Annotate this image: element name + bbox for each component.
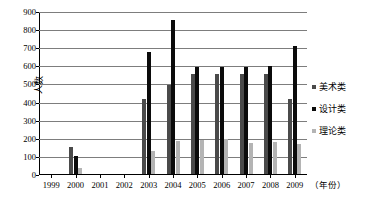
x-axis-tick (149, 175, 150, 178)
bar (268, 66, 272, 174)
bar (273, 142, 277, 174)
y-axis-tick (36, 103, 39, 104)
y-axis-tick (36, 66, 39, 67)
bar (244, 67, 248, 174)
bar-group (264, 11, 277, 174)
x-axis-tick (76, 175, 77, 178)
legend: 美术类设计类理论类 (312, 76, 370, 142)
bar (74, 156, 78, 174)
x-tick-label: 1999 (43, 180, 60, 190)
x-tick-label: 2003 (140, 180, 157, 190)
bar-group (288, 11, 301, 174)
bar (78, 168, 82, 174)
bar (249, 143, 253, 174)
bar (288, 99, 292, 174)
x-tick-label: 2008 (262, 180, 279, 190)
bar (151, 151, 155, 174)
y-tick-label: 600 (10, 62, 36, 71)
y-tick-label: 900 (10, 8, 36, 17)
x-axis-tick (295, 175, 296, 178)
x-tick-label: 2001 (91, 180, 108, 190)
bar (264, 74, 268, 174)
y-tick-label: 300 (10, 116, 36, 125)
x-axis-tick (270, 175, 271, 178)
bar-group (191, 11, 204, 174)
legend-item[interactable]: 美术类 (312, 76, 370, 98)
bar (240, 74, 244, 174)
y-tick-label: 800 (10, 26, 36, 35)
bar (167, 85, 171, 174)
legend-swatch-icon (312, 129, 316, 133)
x-tick-label: 2006 (213, 180, 230, 190)
bar (176, 141, 180, 175)
bar-group (118, 11, 131, 174)
bar (69, 147, 73, 174)
bar (220, 67, 224, 174)
y-axis-tick (36, 139, 39, 140)
legend-swatch-icon (312, 107, 316, 111)
bar-group (69, 11, 82, 174)
y-tick-label: 100 (10, 153, 36, 162)
y-axis-tick (36, 30, 39, 31)
x-axis-unit-label: （年份） (310, 180, 346, 190)
y-axis-line (39, 12, 40, 175)
bar-group (240, 11, 253, 174)
bar (224, 139, 228, 174)
y-axis-tick-labels: 0100200300400500600700800900 (6, 0, 36, 208)
legend-label: 设计类 (319, 104, 346, 114)
bar (171, 20, 175, 174)
bar-group (167, 11, 180, 174)
x-tick-label: 2004 (165, 180, 182, 190)
bar (142, 99, 146, 174)
y-tick-label: 0 (10, 171, 36, 180)
x-axis-tick (100, 175, 101, 178)
plot-area (39, 12, 307, 175)
legend-label: 美术类 (319, 82, 346, 92)
x-axis-tick (51, 175, 52, 178)
bar (215, 74, 219, 174)
bar (195, 67, 199, 174)
bar-group (93, 11, 106, 174)
legend-swatch-icon (312, 85, 316, 89)
bar (200, 140, 204, 174)
bar-chart: 人数 0100200300400500600700800900 19992000… (0, 0, 371, 208)
x-tick-label: 2005 (189, 180, 206, 190)
y-axis-tick (36, 48, 39, 49)
y-axis-tick (36, 84, 39, 85)
x-axis-tick (246, 175, 247, 178)
bar-group (142, 11, 155, 174)
x-axis-ticks (39, 175, 307, 178)
bar-group (45, 11, 58, 174)
legend-label: 理论类 (319, 126, 346, 136)
x-tick-label: 2002 (116, 180, 133, 190)
bar-group (215, 11, 228, 174)
bar (297, 144, 301, 174)
x-axis-tick (222, 175, 223, 178)
x-tick-label: 2000 (67, 180, 84, 190)
y-tick-label: 500 (10, 80, 36, 89)
x-axis-tick (173, 175, 174, 178)
y-tick-label: 400 (10, 98, 36, 107)
x-tick-label: 2007 (238, 180, 255, 190)
y-axis-tick (36, 157, 39, 158)
x-tick-label: 2009 (286, 180, 303, 190)
y-tick-label: 200 (10, 135, 36, 144)
legend-item[interactable]: 设计类 (312, 98, 370, 120)
y-axis-tick (36, 121, 39, 122)
bar (147, 52, 151, 174)
x-axis-tick (124, 175, 125, 178)
y-axis-tick (36, 12, 39, 13)
x-axis-tick (197, 175, 198, 178)
legend-item[interactable]: 理论类 (312, 120, 370, 142)
y-tick-label: 700 (10, 44, 36, 53)
bar (191, 74, 195, 174)
bar (293, 46, 297, 174)
